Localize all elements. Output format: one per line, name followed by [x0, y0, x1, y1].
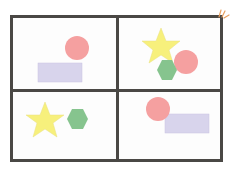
circle-shape [146, 97, 170, 121]
hexagon-shape [67, 109, 88, 129]
panel-top-right [142, 28, 198, 80]
star-shape [142, 28, 180, 63]
star-shape [26, 102, 64, 137]
panel-bottom-left [26, 102, 88, 137]
hexagon-shape [157, 60, 177, 80]
sparkle-icon [217, 7, 231, 19]
rectangle-shape [38, 63, 82, 82]
rectangle-shape [165, 114, 209, 133]
panel-bottom-right [146, 97, 209, 133]
panel-top-left [38, 36, 89, 82]
shapes-layer [0, 0, 238, 172]
circle-shape [65, 36, 89, 60]
circle-shape [174, 50, 198, 74]
